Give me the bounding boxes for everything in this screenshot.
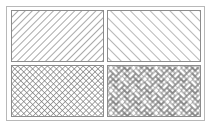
panel-top-right bbox=[108, 11, 201, 62]
pattern-grid bbox=[0, 0, 211, 128]
panel-bottom-right bbox=[108, 66, 201, 117]
panel-top-left bbox=[12, 11, 104, 62]
panel-bottom-left bbox=[12, 66, 104, 117]
hatch-pattern-figure bbox=[0, 0, 211, 128]
